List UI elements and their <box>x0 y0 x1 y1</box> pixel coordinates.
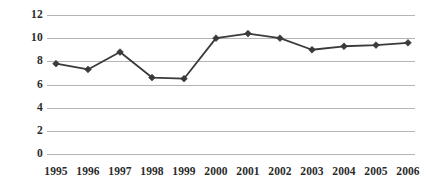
data-point-2004 <box>341 43 348 50</box>
plot-area: 024681012 199519961997199819992000200120… <box>0 0 437 190</box>
data-point-2005 <box>373 42 380 49</box>
data-point-2006 <box>405 39 412 46</box>
data-point-1996 <box>85 66 92 73</box>
data-point-2001 <box>245 30 252 37</box>
data-point-1995 <box>53 60 60 67</box>
line-chart: 024681012 199519961997199819992000200120… <box>0 0 437 190</box>
data-point-2002 <box>277 35 284 42</box>
series-marker-group <box>53 30 412 82</box>
data-series-layer <box>0 0 437 190</box>
series-line <box>56 34 408 79</box>
data-point-2003 <box>309 46 316 53</box>
